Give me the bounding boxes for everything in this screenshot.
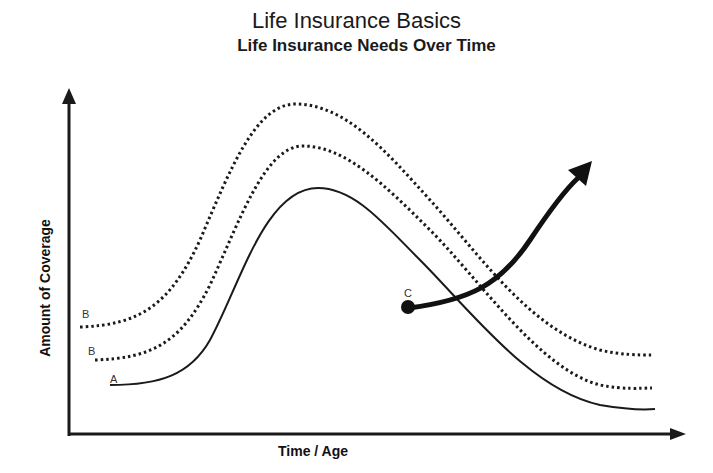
arrow-c — [401, 161, 592, 314]
x-axis-label: Time / Age — [278, 443, 348, 459]
y-axis — [62, 88, 76, 436]
coverage-diagram: B B A C — [0, 0, 713, 473]
label-b-lower: B — [88, 345, 95, 357]
label-c: C — [404, 287, 412, 299]
curve-b-lower — [95, 146, 652, 388]
y-axis-label: Amount of Coverage — [37, 188, 53, 388]
label-b-upper: B — [82, 308, 89, 320]
curve-a — [110, 188, 655, 410]
label-a: A — [110, 373, 118, 385]
curve-b-upper — [80, 104, 652, 355]
x-axis — [68, 428, 686, 440]
